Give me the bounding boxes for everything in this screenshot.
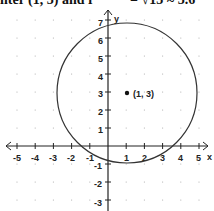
- grid-dot: [162, 37, 163, 38]
- grid-dot: [144, 163, 145, 164]
- grid-dot: [180, 19, 181, 20]
- grid-dot: [53, 199, 54, 200]
- grid-dot: [89, 127, 90, 128]
- grid-dot: [89, 181, 90, 182]
- grid-dot: [35, 199, 36, 200]
- grid-dot: [89, 199, 90, 200]
- grid-dot: [144, 199, 145, 200]
- x-tick-label: -3: [49, 153, 57, 163]
- x-tick-label: 5: [196, 153, 201, 163]
- grid-dot: [16, 91, 17, 92]
- grid-dot: [89, 109, 90, 110]
- grid-dot: [53, 55, 54, 56]
- x-tick-label: -2: [67, 153, 75, 163]
- grid-dot: [126, 37, 127, 38]
- x-tick-label: 4: [178, 153, 183, 163]
- grid-dot: [126, 199, 127, 200]
- y-tick-label: 1: [98, 125, 103, 135]
- grid-dot: [198, 127, 199, 128]
- x-tick-label: -5: [13, 153, 21, 163]
- grid-dot: [53, 109, 54, 110]
- grid-dot: [35, 55, 36, 56]
- grid-dot: [53, 37, 54, 38]
- grid-dot: [35, 181, 36, 182]
- grid-dot: [198, 181, 199, 182]
- grid-dot: [71, 181, 72, 182]
- grid-dot: [71, 127, 72, 128]
- grid-dot: [53, 91, 54, 92]
- grid-dot: [53, 181, 54, 182]
- grid-dot: [16, 37, 17, 38]
- center-point: [125, 91, 129, 95]
- grid-dot: [198, 37, 199, 38]
- grid-dot: [16, 73, 17, 74]
- x-tick-label: -4: [31, 153, 39, 163]
- y-tick-label: 3: [98, 89, 103, 99]
- grid-dot: [71, 199, 72, 200]
- grid-dot: [35, 19, 36, 20]
- grid-dot: [53, 163, 54, 164]
- grid-dot: [35, 163, 36, 164]
- grid-dot: [144, 19, 145, 20]
- grid-dot: [16, 109, 17, 110]
- grid-dot: [71, 37, 72, 38]
- grid-dot: [35, 127, 36, 128]
- grid-dot: [126, 109, 127, 110]
- grid-dot: [162, 91, 163, 92]
- grid-dot: [162, 199, 163, 200]
- grid-dot: [162, 19, 163, 20]
- grid-dot: [180, 181, 181, 182]
- y-tick-label: 7: [98, 18, 103, 28]
- grid-dot: [180, 199, 181, 200]
- grid-dot: [162, 127, 163, 128]
- x-tick-label: 1: [124, 153, 129, 163]
- grid-dot: [198, 73, 199, 74]
- grid-dot: [35, 73, 36, 74]
- grid-dot: [198, 91, 199, 92]
- grid-dot: [180, 127, 181, 128]
- y-axis-label: y: [114, 14, 119, 24]
- grid-dot: [53, 127, 54, 128]
- grid-dot: [89, 19, 90, 20]
- coordinate-plane: x y -5 -4 -3 -2 -1 1 2 3 4 5 7 6 5 4 3 2…: [0, 0, 214, 211]
- y-tick-label: 4: [98, 72, 103, 82]
- grid-dot: [144, 181, 145, 182]
- grid-dot: [180, 37, 181, 38]
- y-tick-label: 5: [98, 54, 103, 64]
- grid-dot: [180, 163, 181, 164]
- grid-dot: [162, 73, 163, 74]
- grid-dot: [198, 163, 199, 164]
- grid-dot: [162, 181, 163, 182]
- grid-dot: [144, 55, 145, 56]
- grid-dot: [35, 37, 36, 38]
- grid-dot: [35, 91, 36, 92]
- grid-dot: [71, 19, 72, 20]
- center-point-label: (1, 3): [133, 89, 154, 99]
- grid-dot: [198, 55, 199, 56]
- grid-dot: [180, 55, 181, 56]
- grid-dot: [16, 55, 17, 56]
- grid-dot: [162, 55, 163, 56]
- grid-dot: [89, 55, 90, 56]
- grid-dot: [162, 163, 163, 164]
- grid-dot: [144, 73, 145, 74]
- y-tick-label: -3: [94, 198, 102, 208]
- grid-dot: [16, 19, 17, 20]
- y-tick-label: 2: [98, 107, 103, 117]
- grid-dot: [126, 19, 127, 20]
- grid-dot: [89, 91, 90, 92]
- grid-dot: [35, 109, 36, 110]
- grid-dot: [126, 181, 127, 182]
- grid-dot: [198, 199, 199, 200]
- grid-dot: [144, 127, 145, 128]
- grid-dot: [89, 163, 90, 164]
- y-tick-label: -2: [94, 179, 102, 189]
- grid-dot: [89, 73, 90, 74]
- grid-dot: [53, 19, 54, 20]
- grid-dot: [198, 109, 199, 110]
- grid-dot: [71, 73, 72, 74]
- grid-dot: [162, 109, 163, 110]
- grid-dot: [198, 19, 199, 20]
- grid-dot: [180, 91, 181, 92]
- grid-dot: [16, 199, 17, 200]
